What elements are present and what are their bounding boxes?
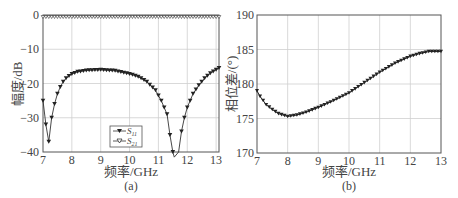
y-axis-label-b: 相位差/(°) xyxy=(224,56,239,112)
x-tick-label: 7 xyxy=(40,153,46,167)
x-axis-label-a: 频率/GHz xyxy=(104,164,158,179)
caption-a: (a) xyxy=(124,179,137,193)
panel-b: 190185180175170 78910111213 频率/GHz 相位差/(… xyxy=(224,8,447,193)
panel-a: 0−10−20−30−40 78910111213 S11 S21 频率/GHz… xyxy=(10,8,222,193)
caption-b: (b) xyxy=(342,179,356,193)
y-tick-label: 185 xyxy=(236,43,254,57)
s21-markers xyxy=(41,16,221,19)
y-tick-label: 170 xyxy=(236,146,254,160)
y-tick-label: −30 xyxy=(20,111,39,125)
y-axis-label-a: 幅度/dB xyxy=(10,61,25,106)
x-axis-label-b: 频率/GHz xyxy=(322,164,376,179)
x-tick-label: 7 xyxy=(254,154,260,168)
x-tick-label: 9 xyxy=(315,154,321,168)
x-tick-label: 8 xyxy=(69,153,75,167)
x-tick-label: 13 xyxy=(210,153,222,167)
x-tick-label: 12 xyxy=(404,154,416,168)
grid-b xyxy=(257,15,441,153)
x-tick-label: 13 xyxy=(435,154,447,168)
x-tick-label: 9 xyxy=(98,153,104,167)
y-tick-label: 175 xyxy=(236,112,254,126)
y-tick-label: 190 xyxy=(236,8,254,22)
y-tick-label: −10 xyxy=(20,42,39,56)
y-tick-label: 0 xyxy=(33,8,39,22)
legend: S11 S21 xyxy=(110,126,142,147)
y-tick-label: −40 xyxy=(20,145,39,159)
figure: 0−10−20−30−40 78910111213 S11 S21 频率/GHz… xyxy=(0,0,458,198)
x-tick-label: 12 xyxy=(181,153,193,167)
x-tick-label: 8 xyxy=(285,154,291,168)
